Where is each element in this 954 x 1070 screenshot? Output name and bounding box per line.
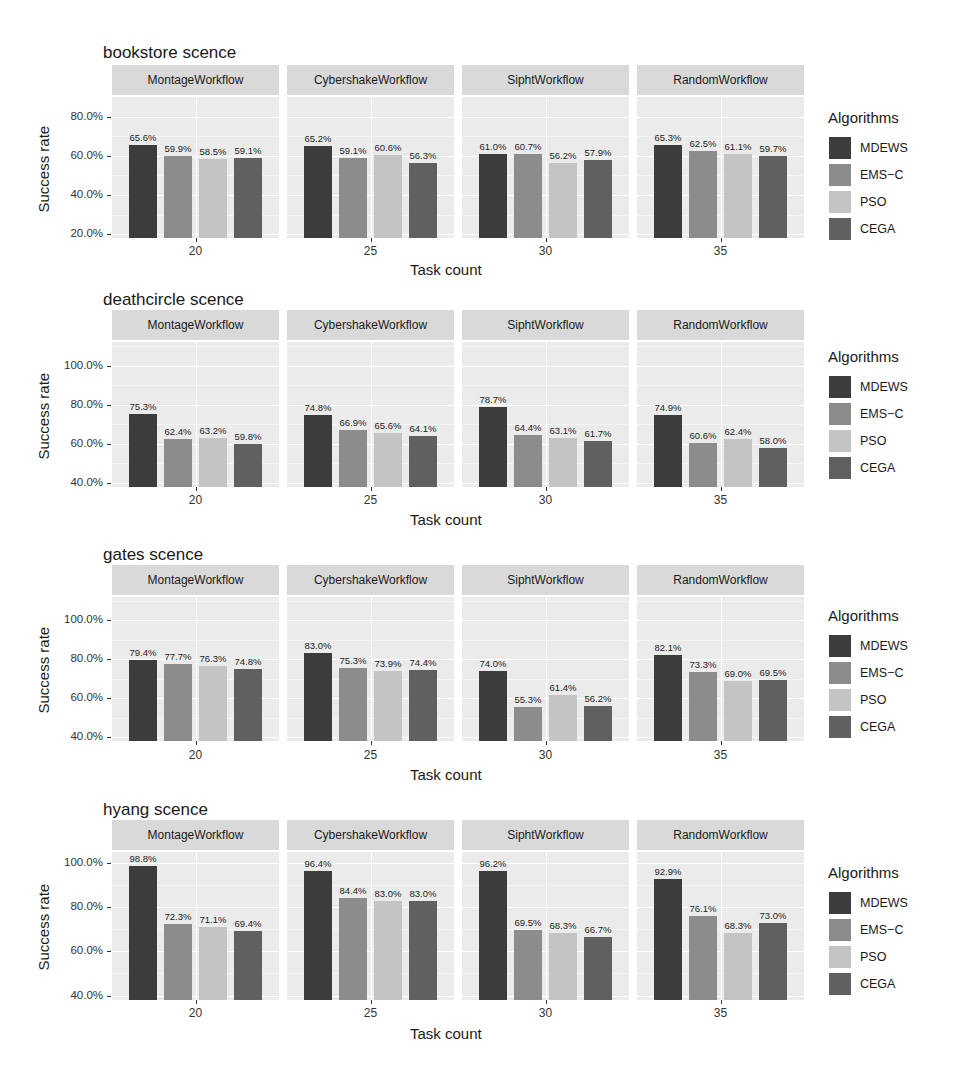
legend-title: Algorithms: [828, 109, 899, 126]
y-tick-mark: [107, 405, 111, 406]
bar-value-label: 69.4%: [223, 918, 273, 929]
bar-CEGA-35[interactable]: [759, 923, 787, 1000]
bar-CEGA-35[interactable]: [759, 156, 787, 238]
y-tick-mark: [107, 620, 111, 621]
bar-CEGA-20[interactable]: [234, 444, 262, 487]
bar-MDEWS-25[interactable]: [304, 653, 332, 741]
bar-CEGA-30[interactable]: [584, 441, 612, 487]
bar-value-label: 96.4%: [293, 858, 343, 869]
bar-MDEWS-35[interactable]: [654, 879, 682, 1000]
bar-EMS-C-35[interactable]: [689, 672, 717, 741]
bar-EMS-C-30[interactable]: [514, 435, 542, 487]
bar-value-label: 61.7%: [573, 428, 623, 439]
bar-value-label: 65.2%: [293, 133, 343, 144]
bar-PSO-30[interactable]: [549, 933, 577, 1000]
x-tick-label: 20: [176, 493, 216, 507]
bar-MDEWS-20[interactable]: [129, 414, 157, 487]
y-tick-mark: [107, 907, 111, 908]
legend-label-EMS−C: EMS−C: [860, 407, 903, 421]
facet-strip-MontageWorkflow: MontageWorkflow: [112, 65, 279, 95]
bar-CEGA-30[interactable]: [584, 706, 612, 741]
bar-PSO-25[interactable]: [374, 901, 402, 1000]
bar-EMS-C-20[interactable]: [164, 924, 192, 1000]
bar-MDEWS-35[interactable]: [654, 145, 682, 238]
bar-MDEWS-30[interactable]: [479, 871, 507, 1000]
bar-PSO-20[interactable]: [199, 159, 227, 238]
x-tick-mark: [196, 741, 197, 745]
bar-CEGA-35[interactable]: [759, 680, 787, 741]
x-tick-label: 20: [176, 244, 216, 258]
bar-PSO-20[interactable]: [199, 438, 227, 487]
bar-EMS-C-20[interactable]: [164, 156, 192, 238]
bar-MDEWS-30[interactable]: [479, 407, 507, 487]
bar-EMS-C-20[interactable]: [164, 664, 192, 741]
bar-CEGA-30[interactable]: [584, 937, 612, 1000]
y-tick-mark: [107, 444, 111, 445]
bar-value-label: 57.9%: [573, 147, 623, 158]
bar-EMS-C-35[interactable]: [689, 151, 717, 238]
bar-MDEWS-30[interactable]: [479, 154, 507, 238]
bar-PSO-30[interactable]: [549, 438, 577, 487]
bar-EMS-C-25[interactable]: [339, 430, 367, 487]
x-tick-label: 25: [351, 493, 391, 507]
bar-CEGA-25[interactable]: [409, 436, 437, 487]
bar-value-label: 74.8%: [293, 402, 343, 413]
bar-MDEWS-20[interactable]: [129, 145, 157, 238]
legend-key-PSO: [829, 946, 851, 968]
bar-PSO-25[interactable]: [374, 671, 402, 741]
x-tick-mark: [546, 238, 547, 242]
bar-PSO-35[interactable]: [724, 154, 752, 238]
bar-PSO-20[interactable]: [199, 927, 227, 1000]
y-tick-label: 80.0%: [43, 652, 103, 664]
bar-EMS-C-25[interactable]: [339, 668, 367, 741]
bar-CEGA-20[interactable]: [234, 931, 262, 1000]
bar-CEGA-25[interactable]: [409, 670, 437, 741]
bar-PSO-25[interactable]: [374, 155, 402, 238]
bar-MDEWS-25[interactable]: [304, 146, 332, 238]
bar-MDEWS-20[interactable]: [129, 866, 157, 1000]
bar-EMS-C-35[interactable]: [689, 443, 717, 487]
bar-EMS-C-20[interactable]: [164, 439, 192, 487]
bar-EMS-C-25[interactable]: [339, 898, 367, 1000]
bar-PSO-35[interactable]: [724, 933, 752, 1000]
x-tick-mark: [546, 487, 547, 491]
bar-value-label: 64.1%: [398, 423, 448, 434]
bar-MDEWS-35[interactable]: [654, 415, 682, 487]
bar-PSO-35[interactable]: [724, 681, 752, 741]
bar-value-label: 74.8%: [223, 656, 273, 667]
legend-key-EMS−C: [829, 662, 851, 684]
y-tick-label: 40.0%: [43, 188, 103, 200]
legend-label-MDEWS: MDEWS: [860, 639, 908, 653]
x-tick-label: 20: [176, 748, 216, 762]
legend-label-PSO: PSO: [860, 195, 886, 209]
bar-EMS-C-30[interactable]: [514, 154, 542, 238]
facet-strip-SiphtWorkflow: SiphtWorkflow: [462, 820, 629, 850]
bar-CEGA-20[interactable]: [234, 158, 262, 238]
legend-key-EMS−C: [829, 919, 851, 941]
bar-CEGA-20[interactable]: [234, 669, 262, 741]
bar-MDEWS-30[interactable]: [479, 671, 507, 741]
bar-PSO-30[interactable]: [549, 163, 577, 238]
bar-CEGA-30[interactable]: [584, 160, 612, 238]
legend-key-PSO: [829, 191, 851, 213]
bar-value-label: 59.1%: [223, 145, 273, 156]
bar-PSO-35[interactable]: [724, 439, 752, 487]
x-tick-label: 25: [351, 748, 391, 762]
bar-CEGA-35[interactable]: [759, 448, 787, 487]
legend-label-CEGA: CEGA: [860, 461, 895, 475]
bar-EMS-C-30[interactable]: [514, 707, 542, 741]
bar-EMS-C-25[interactable]: [339, 158, 367, 238]
bar-PSO-20[interactable]: [199, 666, 227, 741]
bar-value-label: 82.1%: [643, 642, 693, 653]
legend-label-PSO: PSO: [860, 693, 886, 707]
bar-CEGA-25[interactable]: [409, 163, 437, 238]
bar-value-label: 55.3%: [503, 694, 553, 705]
x-tick-mark: [721, 741, 722, 745]
legend-label-EMS−C: EMS−C: [860, 923, 903, 937]
x-tick-mark: [371, 487, 372, 491]
bar-EMS-C-30[interactable]: [514, 930, 542, 1000]
bar-CEGA-25[interactable]: [409, 901, 437, 1000]
bar-PSO-25[interactable]: [374, 433, 402, 487]
chart-title: gates scence: [103, 545, 203, 565]
bar-MDEWS-20[interactable]: [129, 660, 157, 741]
